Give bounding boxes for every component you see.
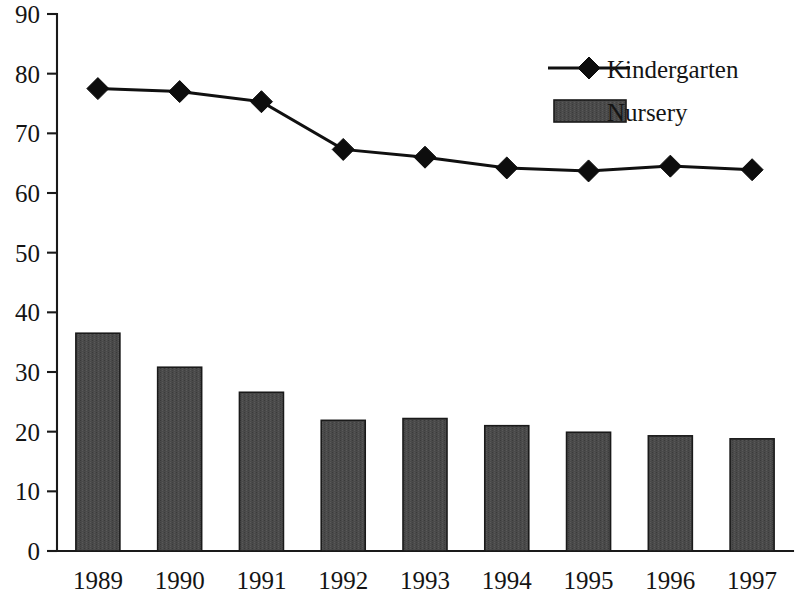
x-axis-category-label: 1990: [155, 567, 205, 594]
nursery-bar: [158, 367, 202, 551]
kindergarten-diamond-marker: [496, 157, 518, 179]
y-axis: 0102030405060708090: [15, 1, 57, 565]
kindergarten-line-series: [87, 78, 763, 182]
nursery-bar: [648, 436, 692, 551]
x-axis-category-label: 1994: [482, 567, 533, 594]
legend-kindergarten-diamond-icon: [578, 57, 600, 79]
legend-label-kindergarten: Kindergarten: [607, 56, 739, 83]
kindergarten-diamond-marker: [659, 155, 681, 177]
nursery-bar: [76, 333, 120, 551]
x-axis-category-label: 1995: [564, 567, 614, 594]
nursery-bar: [239, 392, 283, 551]
y-axis-tick-label: 10: [15, 478, 40, 505]
x-axis-category-label: 1992: [318, 567, 368, 594]
y-axis-tick-label: 50: [15, 240, 40, 267]
y-axis-tick-label: 60: [15, 180, 40, 207]
chart-legend: KindergartenNursery: [548, 56, 739, 126]
y-axis-tick-label: 90: [15, 1, 40, 28]
x-axis-category-label: 1997: [727, 567, 777, 594]
kindergarten-diamond-marker: [169, 81, 191, 103]
y-axis-tick-label: 0: [28, 538, 41, 565]
nursery-bar: [403, 419, 447, 551]
nursery-bar: [567, 432, 611, 551]
y-axis-tick-label: 40: [15, 299, 40, 326]
y-axis-tick-label: 80: [15, 61, 40, 88]
chart-container: 0102030405060708090 19891990199119921993…: [0, 0, 804, 604]
y-axis-tick-label: 20: [15, 419, 40, 446]
x-axis: 198919901991199219931994199519961997: [57, 551, 793, 594]
nursery-bar: [485, 426, 529, 551]
chart-plot-area: 0102030405060708090 19891990199119921993…: [0, 0, 804, 604]
kindergarten-diamond-marker: [414, 146, 436, 168]
nursery-bar: [730, 439, 774, 551]
x-axis-category-label: 1989: [73, 567, 123, 594]
nursery-bar-series: [76, 333, 774, 551]
kindergarten-diamond-marker: [741, 159, 763, 181]
y-axis-tick-label: 70: [15, 120, 40, 147]
kindergarten-diamond-marker: [250, 91, 272, 113]
x-axis-category-label: 1993: [400, 567, 450, 594]
nursery-bar: [321, 420, 365, 551]
x-axis-category-label: 1991: [236, 567, 286, 594]
legend-label-nursery: Nursery: [607, 99, 688, 126]
x-axis-category-label: 1996: [645, 567, 695, 594]
kindergarten-diamond-marker: [87, 78, 109, 100]
kindergarten-diamond-marker: [332, 138, 354, 160]
kindergarten-diamond-marker: [578, 160, 600, 182]
y-axis-tick-label: 30: [15, 359, 40, 386]
